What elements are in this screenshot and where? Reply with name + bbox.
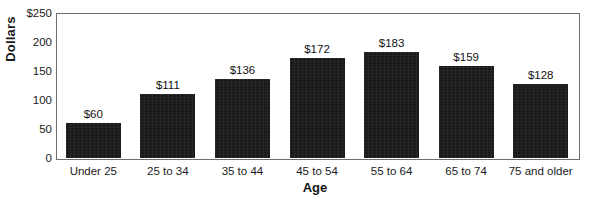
- x-axis-category-label: 55 to 64: [371, 164, 413, 178]
- bar-chart: Dollars 050100150200$250 Under 2525 to 3…: [0, 0, 593, 207]
- x-axis-category-label: 65 to 74: [445, 164, 487, 178]
- bar: [290, 58, 345, 158]
- y-axis-tick-label-wrap: 200: [0, 36, 52, 48]
- bar: [215, 79, 270, 158]
- x-axis-category-label: 35 to 44: [222, 164, 264, 178]
- bar-value-label: $128: [528, 69, 554, 82]
- bar: [513, 84, 568, 158]
- bar: [439, 66, 494, 158]
- x-axis-category-label: Under 25: [70, 164, 117, 178]
- plot-area: [56, 13, 578, 158]
- y-axis-tick-label: 100: [6, 94, 52, 106]
- y-axis-tick-label: 0: [6, 152, 52, 164]
- x-axis-title: Age: [303, 180, 328, 195]
- x-axis-category-label: 45 to 54: [296, 164, 338, 178]
- bar-value-label: $111: [156, 79, 180, 92]
- y-axis-tick-label-wrap: 0: [0, 152, 52, 164]
- bar: [140, 94, 195, 158]
- bar: [66, 123, 121, 158]
- y-axis-tick-label: $250: [6, 7, 52, 19]
- y-axis-tick-label-wrap: $250: [0, 7, 52, 19]
- x-axis-category-label: 25 to 34: [147, 164, 189, 178]
- y-axis-tick-label: 200: [6, 36, 52, 48]
- y-axis-tick-label: 150: [6, 65, 52, 77]
- y-axis-tick-label-wrap: 150: [0, 65, 52, 77]
- bar-value-label: $60: [84, 108, 103, 121]
- bar-value-label: $136: [230, 64, 256, 77]
- y-axis-tick-label-wrap: 50: [0, 123, 52, 135]
- bar: [364, 52, 419, 158]
- x-axis-category-label: 75 and older: [509, 164, 573, 178]
- bar-value-label: $159: [453, 51, 479, 64]
- bar-value-label: $183: [379, 37, 405, 50]
- bar-value-label: $172: [304, 43, 330, 56]
- y-axis-tick-label-wrap: 100: [0, 94, 52, 106]
- y-axis-tick-label: 50: [6, 123, 52, 135]
